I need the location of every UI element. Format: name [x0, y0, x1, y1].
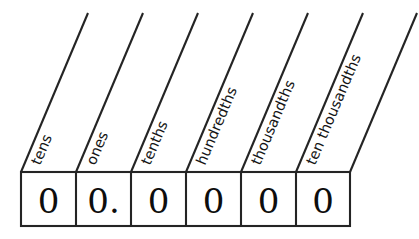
- column-label-ten-thousandths: ten thousandths: [303, 52, 364, 167]
- slant-line-4: [241, 13, 308, 172]
- digit-cell-hundredths: 0: [203, 181, 225, 221]
- column-label-tens: tens: [28, 132, 55, 167]
- slant-line-5: [296, 13, 363, 172]
- place-value-chart-svg: tens ones tenths hundredths thousandths …: [0, 0, 419, 239]
- slant-line-1: [76, 13, 143, 172]
- digit-cell-thousandths: 0: [258, 181, 280, 221]
- place-value-chart: tens ones tenths hundredths thousandths …: [0, 0, 419, 239]
- slant-line-3: [186, 13, 253, 172]
- slant-line-2: [131, 13, 198, 172]
- slanted-column-lines: [21, 13, 417, 172]
- digit-cell-tenths: 0: [148, 181, 170, 221]
- digit-cell-tens: 0: [38, 181, 60, 221]
- digit-cell-ten-thousandths: 0: [312, 181, 334, 221]
- digit-cell-ones: 0.: [87, 181, 119, 221]
- column-label-thousandths: thousandths: [248, 78, 298, 167]
- slant-line-0: [21, 13, 88, 172]
- slant-line-6: [350, 13, 417, 172]
- column-label-ones: ones: [83, 129, 111, 167]
